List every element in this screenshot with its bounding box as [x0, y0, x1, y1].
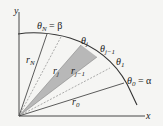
- polar-sector-diagram: y x θN = β θj θj−1 θ1 θ0 = α rN rj rj−1 …: [0, 0, 163, 126]
- theta-N-label: θN = β: [37, 20, 62, 33]
- r-N-label: rN: [26, 54, 35, 67]
- x-axis-label: x: [145, 110, 151, 121]
- theta-0-label: θ0 = α: [127, 75, 152, 88]
- y-axis-label: y: [13, 5, 19, 16]
- theta-1-label: θ1: [116, 56, 124, 69]
